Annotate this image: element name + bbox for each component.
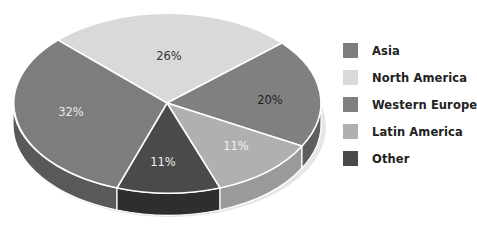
legend-swatch-latin-america — [343, 124, 358, 139]
legend-item-asia: Asia — [343, 37, 477, 64]
legend-label-other: Other — [372, 152, 409, 166]
chart-legend: Asia North America Western Europe Latin … — [343, 37, 477, 172]
legend-swatch-north-america — [343, 70, 358, 85]
label-north-america: 26% — [156, 49, 182, 63]
legend-item-western-europe: Western Europe — [343, 91, 477, 118]
legend-label-western-europe: Western Europe — [372, 98, 477, 112]
label-western-europe: 20% — [257, 93, 283, 107]
legend-item-other: Other — [343, 145, 477, 172]
legend-swatch-other — [343, 151, 358, 166]
legend-label-north-america: North America — [372, 71, 467, 85]
legend-item-north-america: North America — [343, 64, 477, 91]
legend-swatch-western-europe — [343, 97, 358, 112]
label-other: 11% — [150, 155, 176, 169]
legend-label-asia: Asia — [372, 44, 400, 58]
legend-item-latin-america: Latin America — [343, 118, 477, 145]
label-asia: 32% — [58, 105, 84, 119]
legend-swatch-asia — [343, 43, 358, 58]
label-latin-america: 11% — [223, 139, 249, 153]
legend-label-latin-america: Latin America — [372, 125, 463, 139]
